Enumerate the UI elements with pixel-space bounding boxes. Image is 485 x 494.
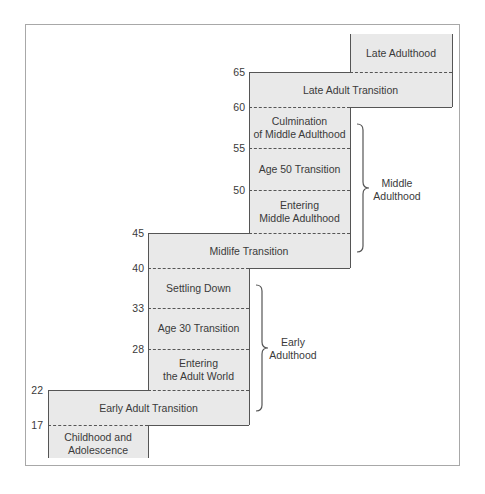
age-label-55: 55 bbox=[225, 142, 245, 154]
outline bbox=[148, 425, 149, 458]
stage-childhood-adolescence: Childhood andAdolescence bbox=[48, 431, 148, 456]
stage-midlife-transition: Midlife Transition bbox=[148, 245, 350, 258]
outline bbox=[452, 34, 453, 107]
age-label-22: 22 bbox=[23, 384, 43, 396]
outline bbox=[48, 390, 148, 391]
age-label-65: 65 bbox=[225, 66, 245, 78]
outline bbox=[249, 268, 350, 269]
age-line-40 bbox=[148, 268, 249, 269]
stage-early-adult-transition: Early Adult Transition bbox=[48, 402, 249, 415]
age-line-28 bbox=[148, 349, 249, 350]
outline bbox=[350, 107, 351, 268]
age-line-65 bbox=[350, 72, 452, 73]
age-label-50: 50 bbox=[225, 184, 245, 196]
age-line-17 bbox=[48, 425, 148, 426]
age-line-60 bbox=[249, 107, 350, 108]
age-line-33 bbox=[148, 308, 249, 309]
stage-age-50-transition: Age 50 Transition bbox=[249, 163, 350, 176]
stage-entering-middle-adulthood: EnteringMiddle Adulthood bbox=[249, 199, 350, 224]
stage-age-30-transition: Age 30 Transition bbox=[148, 322, 249, 335]
stage-late-adult-transition: Late Adult Transition bbox=[249, 84, 452, 97]
age-line-22 bbox=[148, 390, 249, 391]
age-label-28: 28 bbox=[124, 343, 144, 355]
outline bbox=[350, 107, 452, 108]
age-label-17: 17 bbox=[23, 419, 43, 431]
stage-late-adulthood: Late Adulthood bbox=[350, 47, 452, 60]
age-line-45 bbox=[249, 233, 350, 234]
era-early-adulthood: EarlyAdulthood bbox=[262, 336, 324, 362]
stage-entering-adult-world: Enteringthe Adult World bbox=[148, 357, 249, 382]
age-label-40: 40 bbox=[124, 262, 144, 274]
age-line-50 bbox=[249, 190, 350, 191]
stage-settling-down: Settling Down bbox=[148, 282, 249, 295]
age-label-60: 60 bbox=[225, 101, 245, 113]
outline bbox=[249, 72, 350, 73]
age-label-45: 45 bbox=[124, 227, 144, 239]
era-middle-adulthood: MiddleAdulthood bbox=[362, 177, 432, 203]
outline bbox=[148, 233, 249, 234]
stage-culmination-middle-adulthood: Culminationof Middle Adulthood bbox=[249, 115, 350, 140]
outline bbox=[249, 268, 250, 425]
age-line-55 bbox=[249, 148, 350, 149]
age-label-33: 33 bbox=[124, 302, 144, 314]
outline bbox=[148, 425, 249, 426]
